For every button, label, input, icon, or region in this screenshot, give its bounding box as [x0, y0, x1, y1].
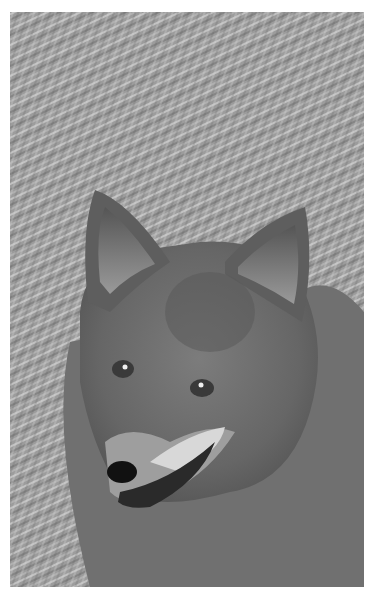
coyote-illustration: [10, 12, 364, 587]
coyote-photo: [10, 12, 364, 587]
